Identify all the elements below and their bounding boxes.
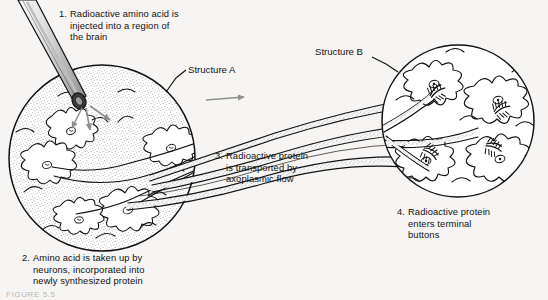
step-4-number: 4. [397, 206, 408, 218]
step-1-line-3: the brain [70, 31, 107, 42]
structure-a-label: Structure A [188, 64, 235, 75]
step-2-line-2: neurons, incorporated into [33, 264, 145, 275]
step-3-caption: 3.Radioactive proteinis transported byax… [215, 150, 308, 185]
step-3-line-1: Radioactive protein [226, 150, 308, 161]
step-3-line-3: axoplasmic flow [226, 173, 294, 184]
step-3-line-2: is transported by [226, 162, 297, 173]
step-1-line-1: Radioactive amino acid is [70, 8, 179, 19]
step-1-line-2: injected into a region of [70, 20, 169, 31]
step-4-caption: 4.Radioactive proteinenters terminalbutt… [397, 206, 490, 241]
step-4-line-1: Radioactive protein [408, 206, 490, 217]
step-4-line-3: buttons [408, 229, 439, 240]
structure-b-group [380, 45, 534, 197]
step-2-caption: 2.Amino acid is taken up byneurons, inco… [22, 252, 145, 287]
structure-b-label: Structure B [315, 46, 363, 57]
step-1-number: 1. [59, 8, 70, 20]
step-4-line-2: enters terminal [408, 218, 472, 229]
step-3-number: 3. [215, 150, 226, 162]
step-2-number: 2. [22, 252, 33, 264]
step-2-line-1: Amino acid is taken up by [33, 252, 142, 263]
figure-canvas: Structure A Structure B 1.Radioactive am… [0, 0, 548, 300]
step-1-caption: 1.Radioactive amino acid isinjected into… [59, 8, 179, 43]
step-2-line-3: newly synthesized protein [33, 275, 143, 286]
figure-caption: FIGURE 5.5 [6, 290, 56, 299]
